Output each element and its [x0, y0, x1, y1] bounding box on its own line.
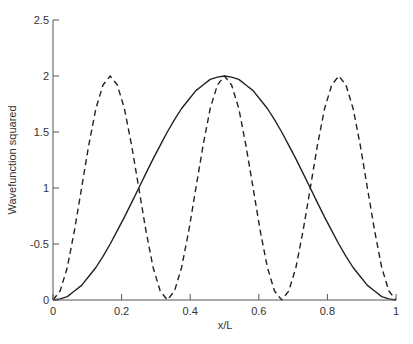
- y-axis-ticks: 0-0.511.522.5: [30, 14, 59, 306]
- x-tick-label: 1: [393, 305, 399, 317]
- x-tick-label: 0.4: [183, 305, 198, 317]
- y-tick-label: 2: [43, 70, 49, 82]
- series-line-n1: [53, 76, 396, 300]
- x-axis-label: x/L: [218, 319, 233, 331]
- chart: 00.20.40.60.81 0-0.511.522.5 x/L Wavefun…: [0, 0, 413, 344]
- y-tick-label: 1.5: [34, 126, 49, 138]
- x-tick-label: 0: [50, 305, 56, 317]
- x-tick-label: 0.6: [251, 305, 266, 317]
- x-tick-label: 0.2: [114, 305, 129, 317]
- y-tick-label: 2.5: [34, 14, 49, 26]
- x-axis-ticks: 00.20.40.60.81: [50, 294, 399, 317]
- y-tick-label: -0.5: [30, 238, 49, 250]
- series-layer: [53, 76, 396, 300]
- y-tick-label: 0: [43, 294, 49, 306]
- y-axis-label: Wavefunction squared: [6, 105, 18, 214]
- y-tick-label: 1: [43, 182, 49, 194]
- x-tick-label: 0.8: [320, 305, 335, 317]
- series-line-n3: [53, 76, 396, 300]
